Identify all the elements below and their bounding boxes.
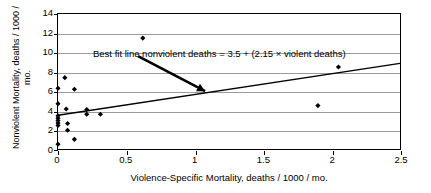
data-point: [55, 86, 60, 91]
x-tick-label-05: 0.5: [106, 155, 146, 165]
x-tick-label-2: 2: [312, 155, 352, 165]
data-point: [315, 103, 320, 108]
best-fit-annotation: Best fit line nonviolent deaths = 3.5 + …: [93, 48, 346, 59]
data-point: [64, 106, 69, 111]
y-tick-label-8: 8: [27, 67, 53, 77]
plot-area: [57, 13, 401, 150]
x-tick-label-25: 2.5: [381, 155, 421, 165]
x-tick-label-15: 1.5: [243, 155, 283, 165]
x-tick-1: [196, 151, 197, 155]
y-tick-label-0: 0: [27, 145, 53, 155]
y-tick-label-2: 2: [27, 125, 53, 135]
data-point: [65, 121, 70, 126]
x-tick-label-0: 0: [37, 155, 77, 165]
data-layer: [58, 14, 400, 149]
y-tick-label-14: 14: [27, 8, 53, 18]
data-point: [84, 112, 89, 117]
data-point: [62, 75, 67, 80]
y-tick-label-4: 4: [27, 106, 53, 116]
x-tick-15: [264, 151, 265, 155]
arrow-shaft: [138, 56, 205, 91]
x-tick-label-1: 1: [175, 155, 215, 165]
y-tick-label-12: 12: [27, 28, 53, 38]
data-point: [336, 64, 341, 69]
x-tick-2: [333, 151, 334, 155]
data-point: [140, 36, 145, 41]
x-tick-25: [401, 151, 402, 155]
data-point: [65, 128, 70, 133]
y-tick-label-10: 10: [27, 47, 53, 57]
data-point: [55, 142, 60, 147]
x-tick-05: [127, 151, 128, 155]
chart-figure: Nonviolent Mortality, deaths / 1000 / mo…: [0, 0, 431, 193]
annotation-arrow: [138, 56, 205, 91]
fit-line: [58, 63, 400, 115]
data-point: [98, 112, 103, 117]
y-tick-label-6: 6: [27, 86, 53, 96]
data-point: [72, 87, 77, 92]
data-point: [55, 101, 60, 106]
data-point: [72, 137, 77, 142]
x-axis-title: Violence-Specific Mortality, deaths / 10…: [57, 172, 401, 183]
best-fit-line: [58, 63, 400, 115]
x-tick-0: [58, 151, 59, 155]
